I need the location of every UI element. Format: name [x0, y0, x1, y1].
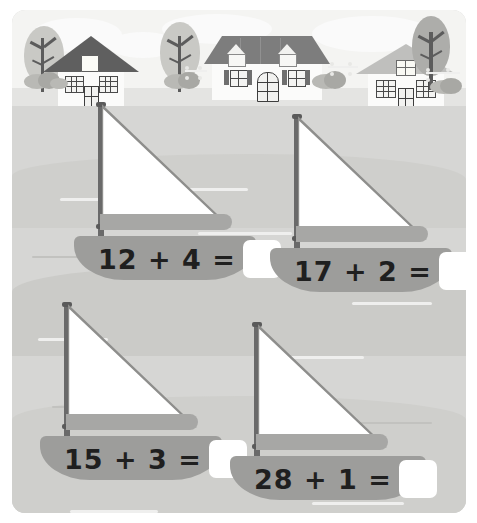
fence-center-post-4-icon — [348, 72, 352, 76]
fence-right-post-1-icon — [426, 68, 430, 72]
boat-3-boom-icon — [66, 414, 198, 430]
house-center-roof-plank-2 — [260, 37, 261, 64]
fence-right-post-3-icon — [446, 68, 450, 72]
sky-band — [12, 10, 466, 106]
boat-4-equation-text: 28 + 1 = — [254, 464, 392, 495]
boat-2-boom-icon — [296, 226, 428, 242]
fence-right-rail — [426, 72, 460, 74]
house-left — [44, 28, 142, 106]
boat-problem-1: 12 + 4 = — [74, 96, 274, 276]
bush-center-2-icon — [178, 72, 200, 89]
house-center-shutter-3 — [282, 70, 287, 85]
fence-left-post-2-icon — [185, 76, 189, 80]
boat-1-boom-icon — [100, 214, 232, 230]
boat-problem-3: 15 + 3 = — [40, 296, 240, 476]
fence-left-post-1-icon — [185, 66, 189, 70]
bush-left-3-icon — [50, 78, 68, 89]
fence-center-post-1-icon — [330, 62, 334, 66]
boat-1-equation-text: 12 + 4 = — [98, 244, 236, 275]
house-center-dormer-1 — [227, 44, 245, 54]
bush-right-2-icon — [440, 78, 462, 94]
boat-4-equation: 28 + 1 = — [254, 462, 437, 496]
fence-center-post-3-icon — [348, 62, 352, 66]
boat-4-boom-icon — [256, 434, 388, 450]
boat-4-answer-box[interactable] — [399, 460, 437, 498]
boat-3-equation: 15 + 3 = — [64, 442, 247, 476]
boat-1-equation: 12 + 4 = — [98, 242, 281, 276]
house-center-dormer-2-window — [279, 54, 297, 67]
house-center — [202, 22, 332, 106]
boat-2-equation: 17 + 2 = — [294, 254, 466, 288]
house-left-attic-window — [81, 55, 99, 72]
house-right-window-1 — [376, 80, 396, 98]
boat-3-equation-text: 15 + 3 = — [64, 444, 202, 475]
house-center-shutter-4 — [305, 70, 310, 85]
wave-highlight-8 — [70, 510, 158, 513]
house-center-dormer-1-window — [228, 54, 246, 67]
fence-left-rail — [185, 70, 207, 72]
boat-problem-2: 17 + 2 = — [270, 108, 466, 288]
boat-2-equation-text: 17 + 2 = — [294, 256, 432, 287]
wave-highlight-7 — [352, 302, 432, 305]
house-center-shutter-1 — [224, 70, 229, 85]
house-center-shutter-2 — [247, 70, 252, 85]
fence-center-post-2-icon — [330, 72, 334, 76]
wave-highlight-9 — [312, 502, 404, 505]
house-center-window-1 — [230, 70, 248, 87]
fence-right-post-2-icon — [426, 78, 430, 82]
bush-center-right-2-icon — [324, 71, 346, 89]
boat-problem-4: 28 + 1 = — [230, 316, 430, 496]
house-center-dormer-2 — [278, 44, 296, 54]
house-right-attic-window — [396, 60, 416, 76]
house-center-window-2 — [288, 70, 306, 87]
worksheet-canvas: 12 + 4 = 17 + 2 = 15 + 3 = — [12, 10, 466, 513]
boat-2-answer-box[interactable] — [439, 252, 466, 290]
house-center-roof-icon — [204, 36, 330, 64]
fence-center-rail — [328, 66, 358, 68]
fence-left-post-4-icon — [198, 76, 202, 80]
fence-left-post-3-icon — [198, 66, 202, 70]
house-left-window-2 — [99, 76, 118, 93]
